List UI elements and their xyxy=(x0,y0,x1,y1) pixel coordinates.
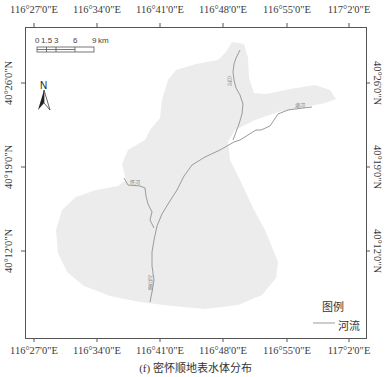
scale-tick-9: 9 xyxy=(92,37,96,45)
lat-label-left: 40°26'0"N xyxy=(4,61,15,105)
lat-label-left: 40°19'0"N xyxy=(4,145,15,189)
lon-label-top: 116°48'0"E xyxy=(199,5,247,16)
scale-unit: km xyxy=(98,37,109,45)
north-arrow-label: N xyxy=(40,80,47,91)
lon-label-top: 116°34'0"E xyxy=(73,5,121,16)
lon-label-bottom: 116°48'0"E xyxy=(199,346,247,357)
legend-item-river: 河流 xyxy=(338,317,360,333)
figure-caption: (f) 密怀顺地表水体分布 xyxy=(0,359,391,375)
scale-tick-0: 0 xyxy=(35,37,39,45)
lon-label-bottom: 116°55'0"E xyxy=(263,346,311,357)
lon-label-bottom: 116°41'0"E xyxy=(136,346,184,357)
lon-label-top: 116°41'0"E xyxy=(136,5,184,16)
map-canvas xyxy=(0,0,391,377)
scale-tick-6: 6 xyxy=(73,37,77,45)
north-arrow-icon xyxy=(38,90,50,110)
lon-label-top: 116°27'0"E xyxy=(10,5,58,16)
river-label-bai: 白河 xyxy=(226,76,233,86)
scale-tick-3: 3 xyxy=(54,37,58,45)
lon-label-bottom: 116°27'0"E xyxy=(10,346,58,357)
lon-label-top: 117°2'0"E xyxy=(328,5,371,16)
river-label-chao: 潮河 xyxy=(295,101,305,108)
scale-bar-graphic xyxy=(37,47,94,52)
lat-label-left: 40°12'0"N xyxy=(4,229,15,273)
legend-title: 图例 xyxy=(322,298,344,314)
study-region xyxy=(56,42,336,309)
lat-label-right: 40°12'0"N xyxy=(372,229,383,273)
river-label-huai: 怀河 xyxy=(130,178,140,185)
scale-tick-1-5: 1.5 xyxy=(41,37,52,45)
lat-label-right: 40°26'0"N xyxy=(372,61,383,105)
lat-label-right: 40°19'0"N xyxy=(372,145,383,189)
lon-label-top: 116°55'0"E xyxy=(263,5,311,16)
lon-label-bottom: 117°2'0"E xyxy=(328,346,371,357)
lon-label-bottom: 116°34'0"E xyxy=(73,346,121,357)
river-label-chaobai: 潮白河 xyxy=(146,275,153,290)
